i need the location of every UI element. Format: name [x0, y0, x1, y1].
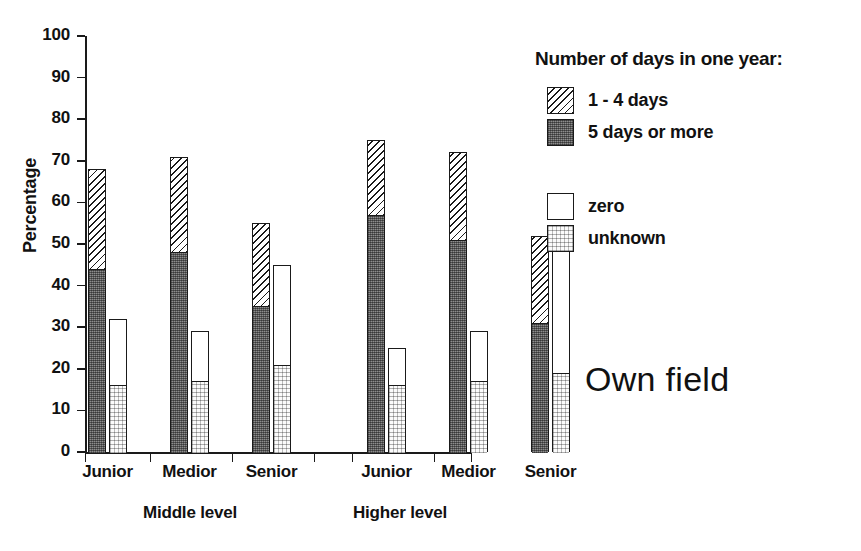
bar-days-stack	[367, 140, 385, 452]
bar-segment-5-days-or-more	[450, 241, 466, 453]
y-tick-mark	[77, 243, 85, 245]
legend-label: zero	[588, 196, 624, 217]
legend-title: Number of days in one year:	[535, 48, 861, 70]
y-tick-label: 70	[24, 150, 70, 170]
bar-segment-zero	[553, 249, 569, 374]
y-tick-label: 60	[24, 191, 70, 211]
legend-entry: zero	[547, 190, 861, 222]
bar-days-stack	[88, 169, 106, 452]
bar-zero-unknown-stack	[191, 331, 209, 452]
bar-segment-zero	[192, 332, 208, 382]
legend: Number of days in one year: 1 - 4 days5 …	[535, 48, 861, 254]
bar-segment-unknown	[192, 382, 208, 453]
bar-segment-zero	[274, 266, 290, 366]
y-tick-label: 10	[24, 399, 70, 419]
x-category-label: Senior	[491, 462, 611, 482]
y-tick-label: 80	[24, 108, 70, 128]
legend-label: 5 days or more	[588, 122, 713, 143]
bar-chart: Percentage 0102030405060708090100 Junior…	[0, 0, 520, 551]
y-tick-mark	[77, 410, 85, 412]
x-tick-mark	[471, 453, 472, 462]
bar-zero-unknown-stack	[470, 331, 488, 452]
bar-zero-unknown-stack	[273, 265, 291, 452]
legend-entries: 1 - 4 days5 days or morezerounknown	[535, 84, 861, 254]
bar-days-stack	[170, 157, 188, 452]
bar-segment-zero	[471, 332, 487, 382]
bar-segment-5-days-or-more	[171, 253, 187, 453]
bar-days-stack	[531, 236, 549, 452]
y-tick-mark	[77, 160, 85, 162]
bar-segment-5-days-or-more	[368, 216, 384, 453]
legend-swatch-dots-icon	[547, 225, 574, 252]
bar-segment-unknown	[471, 382, 487, 453]
x-category-label: Senior	[212, 462, 332, 482]
legend-label: unknown	[588, 228, 666, 249]
bar-segment-zero	[110, 320, 126, 387]
bar-days-stack	[449, 152, 467, 452]
y-axis-tick-labels: 0102030405060708090100	[18, 0, 70, 460]
legend-entry: 5 days or more	[547, 116, 861, 148]
bar-segment-5-days-or-more	[532, 324, 548, 453]
bar-segment-5-days-or-more	[89, 270, 105, 453]
x-tick-mark	[352, 453, 353, 462]
x-tick-mark	[150, 453, 151, 462]
bar-segment-1-4-days	[171, 158, 187, 254]
bar-segment-unknown	[553, 374, 569, 453]
x-tick-mark	[232, 453, 233, 462]
y-tick-mark	[77, 118, 85, 120]
legend-swatch-white-icon	[547, 193, 574, 220]
bar-segment-1-4-days	[253, 224, 269, 307]
x-tick-mark	[314, 453, 315, 462]
bar-segment-1-4-days	[368, 141, 384, 216]
y-tick-label: 50	[24, 233, 70, 253]
bar-zero-unknown-stack	[109, 319, 127, 452]
bar-days-stack	[252, 223, 270, 452]
y-tick-label: 40	[24, 275, 70, 295]
legend-entry: 1 - 4 days	[547, 84, 861, 116]
bar-segment-unknown	[110, 386, 126, 453]
legend-swatch-dark-icon	[547, 119, 574, 146]
y-tick-label: 100	[24, 25, 70, 45]
y-tick-mark	[77, 35, 85, 37]
x-tick-mark	[85, 453, 86, 462]
bar-zero-unknown-stack	[388, 348, 406, 452]
bar-segment-1-4-days	[450, 153, 466, 240]
legend-spacer	[535, 148, 861, 190]
y-tick-label: 0	[24, 441, 70, 461]
y-tick-mark	[77, 326, 85, 328]
bar-segment-zero	[389, 349, 405, 386]
y-axis-line	[85, 36, 87, 453]
y-tick-label: 30	[24, 316, 70, 336]
x-tick-mark	[434, 453, 435, 462]
bar-segment-1-4-days	[89, 170, 105, 270]
bar-segment-unknown	[274, 366, 290, 453]
bar-segment-5-days-or-more	[253, 307, 269, 453]
x-group-label: Higher level	[310, 503, 490, 523]
y-tick-mark	[77, 368, 85, 370]
legend-label: 1 - 4 days	[588, 90, 668, 111]
legend-entry: unknown	[547, 222, 861, 254]
bar-segment-unknown	[389, 386, 405, 453]
y-tick-mark	[77, 285, 85, 287]
x-group-label: Middle level	[100, 503, 280, 523]
y-tick-label: 90	[24, 67, 70, 87]
own-field-annotation: Own field	[585, 360, 729, 399]
y-tick-mark	[77, 77, 85, 79]
y-tick-label: 20	[24, 358, 70, 378]
bar-zero-unknown-stack	[552, 248, 570, 452]
y-tick-mark	[77, 451, 85, 453]
legend-swatch-hatch-icon	[547, 87, 574, 114]
y-tick-mark	[77, 202, 85, 204]
